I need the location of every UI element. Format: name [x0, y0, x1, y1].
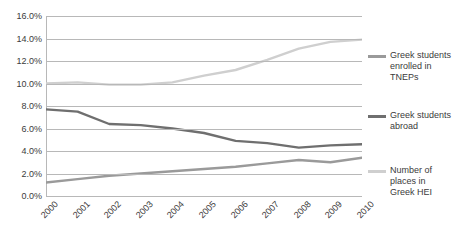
x-axis-tick-label: 2002	[102, 199, 123, 220]
legend-label: Number of places in Greek HEI	[390, 165, 452, 198]
legend-label: Greek students abroad	[390, 110, 452, 132]
x-axis-tick-label: 2003	[134, 199, 155, 220]
line-chart: 0.0%2.0%4.0%6.0%8.0%10.0%12.0%14.0%16.0%…	[0, 0, 454, 237]
x-axis-tick-label: 2007	[260, 199, 281, 220]
x-axis-tick-label: 2001	[70, 199, 91, 220]
x-axis-tick-label: 2008	[292, 199, 313, 220]
x-axis-tick-label: 2005	[197, 199, 218, 220]
x-axis-tick-label: 2006	[228, 199, 249, 220]
chart-legend: Greek students enrolled in TNEPsGreek st…	[368, 0, 454, 237]
x-axis-tick-label: 2009	[323, 199, 344, 220]
legend-entry[interactable]: Greek students abroad	[368, 110, 452, 132]
legend-color-swatch	[368, 55, 386, 58]
legend-color-swatch	[368, 170, 386, 173]
legend-label: Greek students enrolled in TNEPs	[390, 50, 452, 83]
legend-color-swatch	[368, 115, 386, 118]
legend-entry[interactable]: Number of places in Greek HEI	[368, 165, 452, 198]
x-axis-tick-label: 2004	[165, 199, 186, 220]
x-axis-tick-label: 2000	[39, 199, 60, 220]
legend-entry[interactable]: Greek students enrolled in TNEPs	[368, 50, 452, 83]
